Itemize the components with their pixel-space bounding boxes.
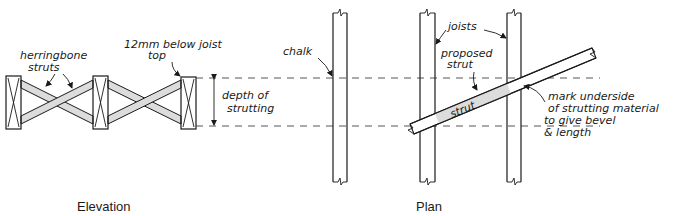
plan-joist-3 bbox=[507, 9, 521, 185]
herringbone-strut-pair-1 bbox=[21, 80, 93, 124]
herringbone-arrow-1 bbox=[46, 74, 55, 86]
plan-caption: Plan bbox=[416, 199, 442, 214]
below-top-arrow bbox=[172, 62, 180, 76]
mark-underside-arrow bbox=[524, 86, 545, 102]
herringbone-strut-pair-2 bbox=[108, 80, 181, 124]
joists-label: joists bbox=[446, 20, 477, 33]
struts-label: struts bbox=[28, 61, 60, 74]
elevation-view: herringbone struts 12mm below joist top … bbox=[6, 38, 600, 214]
chalk-arrow bbox=[318, 58, 332, 76]
chalk-label: chalk bbox=[283, 45, 313, 58]
elevation-caption: Elevation bbox=[77, 199, 130, 214]
herringbone-arrow-2 bbox=[63, 74, 72, 88]
strutting-diagram: herringbone struts 12mm below joist top … bbox=[0, 0, 690, 216]
depth-label: depth of bbox=[222, 89, 270, 102]
joist-section-2 bbox=[93, 76, 108, 129]
proposed-strut-arrow bbox=[473, 72, 477, 90]
plan-view: strut chalk joists proposed strut mark u… bbox=[283, 9, 659, 214]
joist-section-3 bbox=[181, 77, 196, 129]
joists-arrow-1 bbox=[436, 30, 446, 44]
joists-arrow-2 bbox=[484, 30, 506, 38]
mark-label-4: & length bbox=[544, 126, 591, 139]
joist-section-1 bbox=[6, 76, 21, 129]
below-joist-top-label: 12mm below joist bbox=[124, 38, 223, 51]
top-label: top bbox=[148, 49, 166, 62]
strutting-label: strutting bbox=[227, 102, 274, 115]
plan-joist-1 bbox=[333, 9, 347, 185]
plan-joist-2 bbox=[420, 9, 435, 185]
proposed-strut-label: strut bbox=[447, 58, 474, 71]
strut-label: strut bbox=[448, 99, 477, 121]
